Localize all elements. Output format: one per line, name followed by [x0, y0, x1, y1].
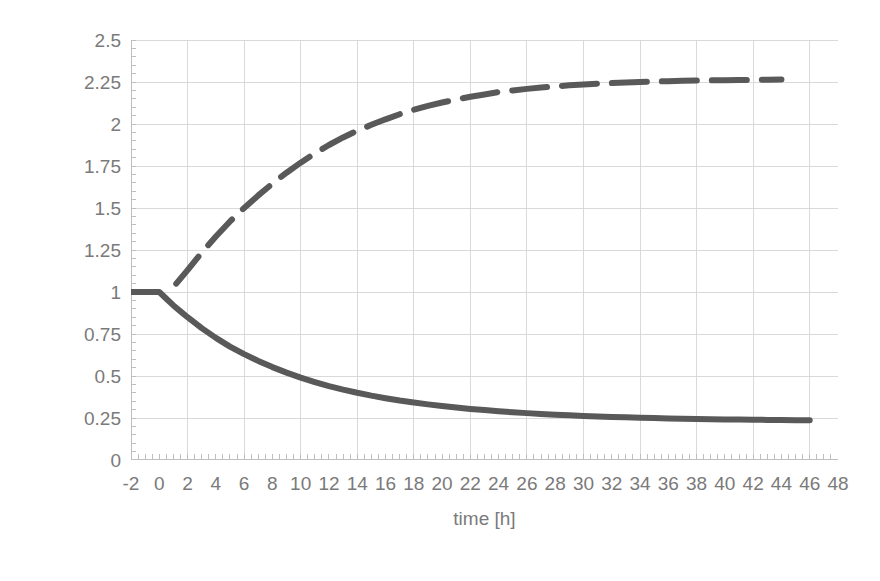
x-axis-tick-label: 6 — [239, 474, 250, 493]
y-axis-tick-label: 2.25 — [61, 73, 121, 92]
x-axis-tick-label: 10 — [290, 474, 311, 493]
x-axis-tick-label: 26 — [516, 474, 537, 493]
x-axis-tick-label: 36 — [658, 474, 679, 493]
x-axis-tick-label: 0 — [154, 474, 165, 493]
x-axis-tick-label: 22 — [460, 474, 481, 493]
x-axis-tick-label: 24 — [488, 474, 509, 493]
plot-svg — [131, 40, 838, 460]
x-axis-tick-label: 2 — [182, 474, 193, 493]
y-axis-tick-label: 1 — [61, 283, 121, 302]
series-line-increasing — [176, 80, 781, 284]
y-axis-tick-label: 0.5 — [61, 367, 121, 386]
plot-area — [131, 40, 838, 460]
x-axis-tick-label: 40 — [714, 474, 735, 493]
x-axis-tick-label: 42 — [743, 474, 764, 493]
y-axis-tick-label: 0 — [61, 451, 121, 470]
x-axis-title: time [h] — [131, 508, 838, 530]
x-axis-tick-label: 34 — [629, 474, 650, 493]
y-axis-tick-label: 2.5 — [61, 31, 121, 50]
x-axis-tick-label: 8 — [267, 474, 278, 493]
x-axis-tick-label: 48 — [827, 474, 848, 493]
x-axis-tick-label: 30 — [573, 474, 594, 493]
x-axis-tick-label: 44 — [771, 474, 792, 493]
grid-lines — [131, 40, 838, 460]
x-axis-tick-label: 14 — [347, 474, 368, 493]
x-axis-tick-labels: -202468101214161820222426283032343638404… — [0, 474, 880, 504]
x-axis-tick-label: 4 — [211, 474, 222, 493]
x-axis-tick-label: 46 — [799, 474, 820, 493]
x-axis-tick-label: 18 — [403, 474, 424, 493]
y-axis-tick-label: 1.25 — [61, 241, 121, 260]
x-axis-tick-label: 20 — [432, 474, 453, 493]
x-axis-tick-label: -2 — [123, 474, 140, 493]
x-axis-tick-label: 12 — [318, 474, 339, 493]
y-axis-tick-label: 1.75 — [61, 157, 121, 176]
x-axis-tick-label: 28 — [545, 474, 566, 493]
x-axis-tick-label: 16 — [375, 474, 396, 493]
y-axis-tick-label: 2 — [61, 115, 121, 134]
y-axis-tick-label: 1.5 — [61, 199, 121, 218]
x-axis-tick-label: 38 — [686, 474, 707, 493]
y-axis-tick-label: 0.25 — [61, 409, 121, 428]
y-axis-tick-label: 0.75 — [61, 325, 121, 344]
chart-container: Normalized Mooney viscosity 00.250.50.75… — [0, 0, 880, 581]
x-axis-tick-label: 32 — [601, 474, 622, 493]
